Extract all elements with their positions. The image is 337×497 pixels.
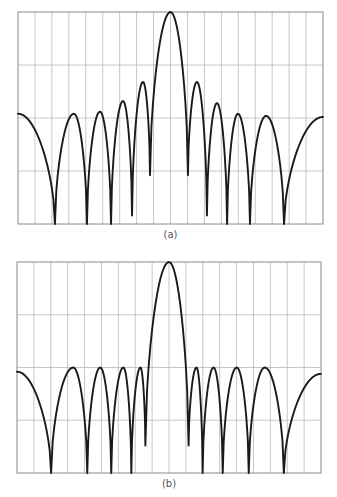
caption-a: (a) (164, 229, 178, 240)
chart-panel-b: (b) (17, 262, 321, 489)
figure: (a) (b) (0, 0, 337, 497)
grid-a (18, 12, 323, 224)
grid-b (17, 262, 321, 473)
chart-panel-a: (a) (18, 12, 323, 240)
caption-b: (b) (162, 478, 176, 489)
